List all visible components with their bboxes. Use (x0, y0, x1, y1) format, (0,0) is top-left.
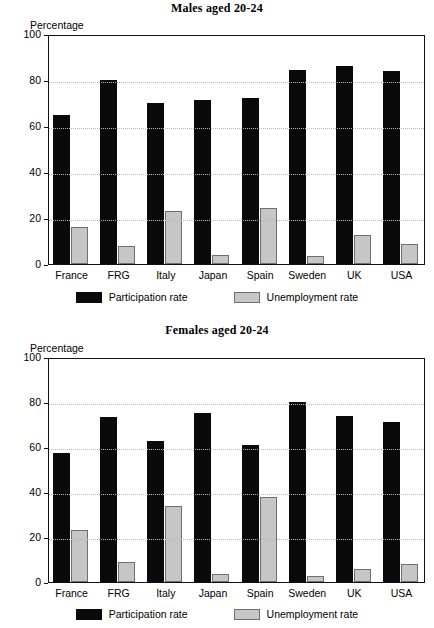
bar-uk-unemployment (354, 569, 371, 583)
y-tick-label-100: 100 (15, 352, 41, 362)
bar-spain-participation (242, 445, 259, 582)
x-tick-label-uk: UK (331, 587, 378, 599)
bar-uk-participation (336, 416, 353, 583)
legend-swatch-unemployment-icon (234, 609, 260, 620)
x-tick-label-france: France (48, 587, 95, 599)
legend-label-unemployment: Unemployment rate (267, 608, 359, 620)
legend-item-participation-males: Participation rate (76, 291, 188, 303)
y-tick-mark-80 (44, 81, 48, 82)
bar-frg-unemployment (118, 246, 135, 264)
x-tick-label-sweden: Sweden (284, 269, 331, 281)
gridline-60 (49, 128, 424, 129)
bar-frg-participation (100, 80, 117, 264)
bar-france-unemployment (71, 530, 88, 582)
y-tick-mark-40 (44, 493, 48, 494)
bar-italy-participation (147, 441, 164, 582)
y-tick-label-60: 60 (15, 121, 41, 131)
y-tick-label-20: 20 (15, 213, 41, 223)
legend-swatch-participation-icon (76, 292, 102, 303)
legend-label-participation: Participation rate (109, 608, 188, 620)
x-tick-label-frg: FRG (95, 587, 142, 599)
bar-uk-participation (336, 66, 353, 264)
y-tick-label-60: 60 (15, 442, 41, 452)
legend-females: Participation rate Unemployment rate (0, 608, 434, 620)
x-tick-label-spain: Spain (237, 587, 284, 599)
chart-males-aged-20-24: Males aged 20-24 Percentage 100806040200… (0, 0, 434, 320)
bar-usa-unemployment (401, 244, 418, 264)
bar-japan-unemployment (212, 574, 229, 582)
y-tick-label-40: 40 (15, 167, 41, 177)
y-tick-label-80: 80 (15, 75, 41, 85)
legend-label-participation: Participation rate (109, 291, 188, 303)
bar-italy-unemployment (165, 506, 182, 583)
y-tick-label-80: 80 (15, 397, 41, 407)
x-tick-label-spain: Spain (237, 269, 284, 281)
bar-japan-participation (194, 413, 211, 582)
x-tick-label-france: France (48, 269, 95, 281)
x-tick-label-japan: Japan (189, 587, 236, 599)
x-tick-label-italy: Italy (142, 269, 189, 281)
bar-sweden-participation (289, 70, 306, 264)
bar-sweden-unemployment (307, 576, 324, 582)
x-tick-label-uk: UK (331, 269, 378, 281)
y-tick-label-40: 40 (15, 487, 41, 497)
bar-sweden-unemployment (307, 256, 324, 264)
y-tick-mark-40 (44, 173, 48, 174)
bar-spain-unemployment (260, 208, 277, 264)
legend-label-unemployment: Unemployment rate (267, 291, 359, 303)
x-tick-label-italy: Italy (142, 587, 189, 599)
y-tick-mark-100 (44, 35, 48, 36)
legend-swatch-unemployment-icon (234, 292, 260, 303)
gridline-40 (49, 494, 424, 495)
legend-males: Participation rate Unemployment rate (0, 291, 434, 303)
chart-title-males: Males aged 20-24 (0, 1, 434, 16)
bar-frg-participation (100, 417, 117, 582)
legend-item-unemployment-females: Unemployment rate (234, 608, 359, 620)
y-tick-mark-60 (44, 127, 48, 128)
x-tick-label-japan: Japan (189, 269, 236, 281)
chart-title-females: Females aged 20-24 (0, 323, 434, 338)
y-tick-mark-0 (44, 583, 48, 584)
bar-frg-unemployment (118, 562, 135, 582)
bar-spain-participation (242, 98, 259, 264)
y-tick-mark-20 (44, 538, 48, 539)
plot-area-males (48, 35, 425, 265)
bars-layer-females (49, 359, 424, 582)
gridline-40 (49, 174, 424, 175)
bar-france-participation (53, 115, 70, 265)
chart-females-aged-20-24: Females aged 20-24 Percentage 1008060402… (0, 320, 434, 628)
y-tick-mark-100 (44, 358, 48, 359)
gridline-80 (49, 82, 424, 83)
x-tick-label-frg: FRG (95, 269, 142, 281)
plot-area-females (48, 358, 425, 583)
y-tick-label-20: 20 (15, 532, 41, 542)
gridline-20 (49, 220, 424, 221)
x-tick-label-sweden: Sweden (284, 587, 331, 599)
legend-swatch-participation-icon (76, 609, 102, 620)
y-tick-mark-0 (44, 265, 48, 266)
y-tick-mark-80 (44, 403, 48, 404)
bar-japan-unemployment (212, 255, 229, 264)
x-tick-label-usa: USA (378, 269, 425, 281)
bar-uk-unemployment (354, 235, 371, 264)
y-tick-mark-20 (44, 219, 48, 220)
bar-france-unemployment (71, 227, 88, 264)
bar-usa-participation (383, 422, 400, 582)
legend-item-unemployment-males: Unemployment rate (234, 291, 359, 303)
y-tick-label-0: 0 (15, 259, 41, 269)
bar-sweden-participation (289, 402, 306, 582)
gridline-60 (49, 449, 424, 450)
bar-japan-participation (194, 100, 211, 264)
gridline-20 (49, 539, 424, 540)
y-tick-label-0: 0 (15, 577, 41, 587)
bar-france-participation (53, 453, 70, 582)
bar-usa-unemployment (401, 564, 418, 582)
y-tick-mark-60 (44, 448, 48, 449)
bars-layer-males (49, 36, 424, 264)
y-tick-label-100: 100 (15, 29, 41, 39)
legend-item-participation-females: Participation rate (76, 608, 188, 620)
bar-usa-participation (383, 71, 400, 264)
x-tick-label-usa: USA (378, 587, 425, 599)
gridline-80 (49, 404, 424, 405)
